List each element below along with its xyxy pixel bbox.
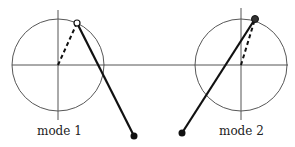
pendulum-diagram: mode 1 mode 2 — [0, 0, 295, 147]
mode-2-pendulum-rod — [182, 19, 255, 133]
mode-1-dashed-crank — [58, 23, 77, 65]
mode-1-bob — [131, 133, 138, 140]
mode-1-label: mode 1 — [37, 124, 82, 138]
mode-1-pivot-open — [74, 20, 80, 26]
mode-2-dashed-crank — [241, 19, 255, 65]
mode-1-pendulum-rod — [77, 23, 134, 136]
mode-2-pivot-filled — [252, 16, 259, 23]
mode-2-label: mode 2 — [219, 124, 264, 138]
mode-2-bob — [179, 130, 186, 137]
